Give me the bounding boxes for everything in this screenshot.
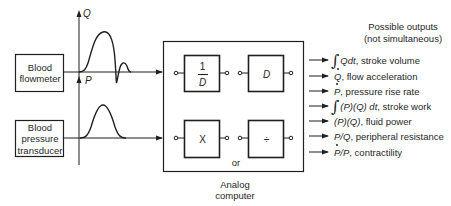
pressure-transducer-label: Blood pressure transducer <box>16 121 64 157</box>
differentiator-label: D <box>249 56 284 92</box>
one-over-d-fraction: 1 D <box>198 61 208 88</box>
flowmeter-label: Blood flowmeter <box>16 55 64 91</box>
pressure-waveform <box>80 105 126 138</box>
q-dot: Q <box>334 71 341 82</box>
integral-icon: ∫ <box>331 97 339 116</box>
pressure-axis-label: P <box>85 75 92 86</box>
output-peripheral-resistance: P/Q, peripheral resistance <box>334 131 444 142</box>
multiplier-label: X <box>185 121 220 158</box>
p-dot: P <box>334 86 340 97</box>
output-fluid-power: (P)(Q), fluid power <box>334 116 412 127</box>
output-stroke-work: ∫(P)(Q) dt, stroke work <box>331 99 431 112</box>
integrator-label: 1 D <box>185 56 220 92</box>
analog-computer-label: Analog computer <box>203 179 267 201</box>
output-flow-acceleration: Q, flow acceleration <box>334 71 417 82</box>
output-stroke-volume: ∫Qdt, stroke volume <box>331 53 420 66</box>
flow-axis-label: Q <box>83 8 91 19</box>
outputs-title: Possible outputs (not simultaneous) <box>355 21 451 44</box>
divider-label: ÷ <box>249 121 284 158</box>
or-label: or <box>227 157 245 168</box>
output-pressure-rise-rate: P, pressure rise rate <box>334 86 420 97</box>
p-dot: P <box>334 147 340 158</box>
output-contractility: P/P, contractility <box>334 147 402 158</box>
